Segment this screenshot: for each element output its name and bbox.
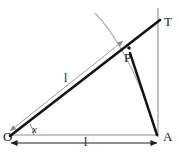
length-label-diagonal: l	[64, 72, 67, 84]
point-label-T: T	[164, 15, 172, 28]
length-label-base: l	[84, 136, 87, 148]
point-label-O: O	[3, 130, 12, 143]
point-label-A: A	[163, 130, 172, 143]
figure-canvas	[0, 0, 179, 156]
geometry-figure: O A T P l l x	[0, 0, 179, 156]
point-label-P: P	[124, 51, 131, 64]
angle-label-x: x	[32, 124, 37, 135]
diagonal-length-arrow	[10, 41, 123, 131]
chord-segment-P-A	[130, 53, 157, 135]
